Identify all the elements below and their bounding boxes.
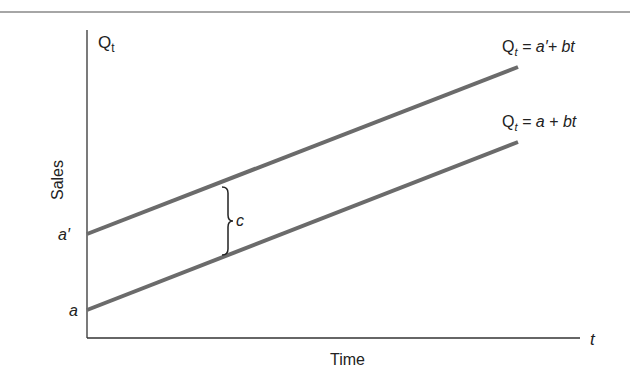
gap-label: c bbox=[236, 212, 244, 229]
upper-line-equation: Qt = a′+ bt bbox=[502, 38, 575, 58]
lower-intercept-label: a bbox=[69, 302, 78, 319]
x-axis-symbol: t bbox=[590, 330, 596, 349]
y-axis-symbol: Qt bbox=[98, 33, 115, 55]
y-axis-label: Sales bbox=[49, 160, 66, 200]
lower-trend-line bbox=[87, 142, 518, 310]
lower-line-equation: Qt = a + bt bbox=[502, 113, 577, 133]
upper-intercept-label: a′ bbox=[58, 226, 71, 243]
gap-brace-icon bbox=[222, 187, 233, 255]
upper-trend-line bbox=[87, 67, 518, 234]
diagram-canvas: Qt Sales a′ a c Qt = a′+ bt Qt = a + bt … bbox=[0, 0, 630, 391]
x-axis-label: Time bbox=[330, 351, 365, 368]
